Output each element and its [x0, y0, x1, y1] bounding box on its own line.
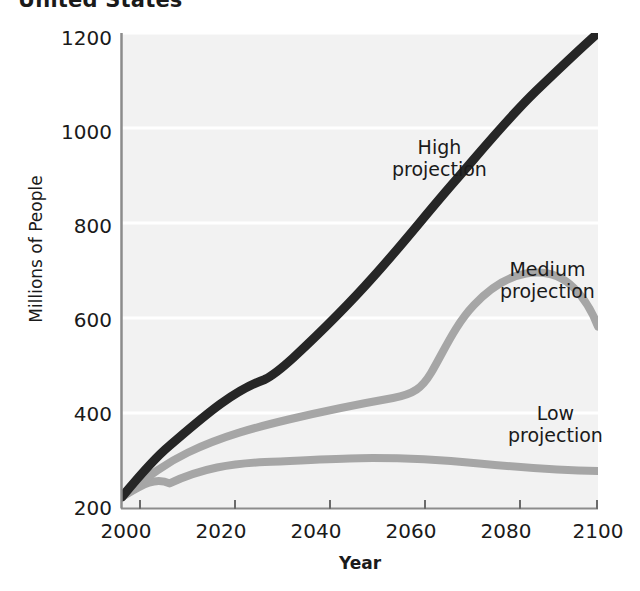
chart-figure: United States Millions of People 200 400… — [0, 0, 640, 591]
x-tick-label: 2100 — [558, 521, 638, 541]
gridlines — [122, 33, 598, 413]
y-tick-label: 1200 — [56, 28, 112, 48]
x-tick-label: 2040 — [276, 521, 356, 541]
y-tick-label-group: 200 400 600 800 1000 1200 — [52, 0, 112, 591]
annotation-low-line-2: projection — [508, 424, 603, 446]
y-tick-label: 200 — [56, 498, 112, 518]
annotation-low-projection: Low projection — [508, 402, 603, 447]
x-tick-label: 2060 — [371, 521, 451, 541]
annotation-high-projection: High projection — [392, 136, 487, 181]
series-line-medium — [122, 273, 598, 497]
annotation-high-line-2: projection — [392, 158, 487, 180]
x-tick-label: 2080 — [466, 521, 546, 541]
x-tick-label: 2000 — [86, 521, 166, 541]
y-tick-label: 1000 — [56, 122, 112, 142]
annotation-medium-projection: Medium projection — [500, 258, 595, 303]
y-tick-label: 400 — [56, 404, 112, 424]
y-tick-label: 800 — [56, 216, 112, 236]
x-tick-label: 2020 — [181, 521, 261, 541]
annotation-medium-line-2: projection — [500, 280, 595, 302]
annotation-high-line-1: High — [392, 136, 487, 158]
series-line-low — [122, 458, 598, 497]
annotation-medium-line-1: Medium — [500, 258, 595, 280]
y-tick-label: 600 — [56, 310, 112, 330]
x-axis-title: Year — [122, 553, 598, 573]
annotation-low-line-1: Low — [508, 402, 603, 424]
y-axis-title: Millions of People — [26, 139, 46, 359]
